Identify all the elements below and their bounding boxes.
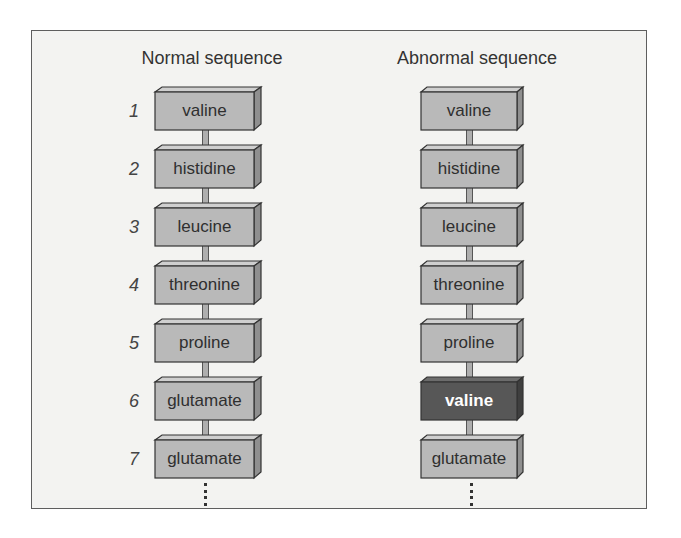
amino-acid-box: proline [155, 319, 261, 362]
peptide-bond-connector [202, 246, 209, 262]
amino-acid-box-mutated: valine [421, 377, 523, 420]
position-number: 3 [122, 217, 146, 238]
peptide-bond-connector [202, 130, 209, 146]
peptide-bond-connector [466, 246, 473, 262]
amino-acid-box: glutamate [155, 435, 261, 478]
peptide-bond-connector [202, 362, 209, 378]
peptide-bond-connector [466, 188, 473, 204]
amino-acid-box: valine [155, 87, 261, 130]
amino-acid-label: leucine [155, 208, 254, 246]
amino-acid-box: leucine [421, 203, 523, 246]
peptide-bond-connector [202, 188, 209, 204]
amino-acid-box: threonine [421, 261, 523, 304]
peptide-bond-connector [202, 420, 209, 436]
amino-acid-label: threonine [155, 266, 254, 304]
position-number: 7 [122, 449, 146, 470]
abnormal-sequence-title: Abnormal sequence [397, 48, 557, 69]
peptide-bond-connector [466, 130, 473, 146]
peptide-bond-connector [466, 420, 473, 436]
amino-acid-box: leucine [155, 203, 261, 246]
continuation-dots-abnormal [470, 483, 473, 506]
peptide-bond-connector [466, 362, 473, 378]
amino-acid-label: proline [155, 324, 254, 362]
amino-acid-label: glutamate [155, 440, 254, 478]
position-number: 5 [122, 333, 146, 354]
amino-acid-box: histidine [155, 145, 261, 188]
amino-acid-label: glutamate [155, 382, 254, 420]
amino-acid-box: proline [421, 319, 523, 362]
position-number: 1 [122, 101, 146, 122]
position-number: 2 [122, 159, 146, 180]
peptide-bond-connector [466, 304, 473, 320]
amino-acid-box: histidine [421, 145, 523, 188]
amino-acid-box: threonine [155, 261, 261, 304]
amino-acid-label: valine [421, 382, 517, 420]
amino-acid-label: histidine [155, 150, 254, 188]
continuation-dots-normal [204, 483, 207, 506]
amino-acid-box: valine [421, 87, 523, 130]
position-number: 6 [122, 391, 146, 412]
amino-acid-label: histidine [421, 150, 517, 188]
amino-acid-label: glutamate [421, 440, 517, 478]
position-number: 4 [122, 275, 146, 296]
normal-sequence-title: Normal sequence [141, 48, 282, 69]
amino-acid-label: valine [155, 92, 254, 130]
amino-acid-label: proline [421, 324, 517, 362]
amino-acid-label: valine [421, 92, 517, 130]
amino-acid-label: leucine [421, 208, 517, 246]
amino-acid-box: glutamate [155, 377, 261, 420]
peptide-bond-connector [202, 304, 209, 320]
amino-acid-box: glutamate [421, 435, 523, 478]
amino-acid-label: threonine [421, 266, 517, 304]
